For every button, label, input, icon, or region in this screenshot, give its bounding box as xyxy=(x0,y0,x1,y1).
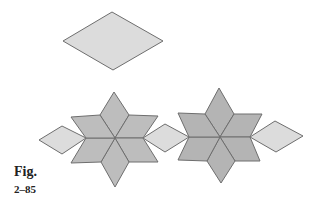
single-rhombus xyxy=(63,12,163,70)
figure-label: Fig. xyxy=(14,164,37,180)
right-star xyxy=(178,88,262,183)
figure-canvas: Fig. 2–85 xyxy=(0,0,314,202)
figure-number: 2–85 xyxy=(14,183,36,195)
rhombus-diagram xyxy=(0,0,314,202)
right-side-rhombus xyxy=(250,121,303,152)
